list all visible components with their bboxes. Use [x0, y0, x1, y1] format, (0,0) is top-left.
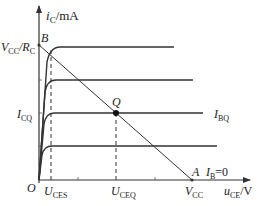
ibq-label: IBQ	[213, 107, 229, 123]
point-a-label: A	[191, 165, 200, 179]
output-characteristics-diagram: iC/mA VCC/RC B ICQ Q IBQ A IB=0 O UCES U…	[0, 0, 265, 206]
axis-ticks	[39, 80, 155, 180]
ib-zero-label: IB=0	[205, 165, 228, 181]
uces-label: UCES	[44, 184, 67, 200]
uceq-label: UCEQ	[111, 184, 136, 200]
vcc-rc-label: VCC/RC	[1, 40, 35, 56]
q-point-marker	[113, 110, 119, 116]
y-axis-label: iC/mA	[46, 8, 79, 25]
icq-label: ICQ	[16, 107, 32, 123]
characteristic-curves	[39, 47, 217, 180]
origin-label: O	[27, 181, 36, 195]
x-axis-label: uCE/V	[224, 184, 253, 200]
point-q-label: Q	[112, 95, 121, 109]
curve-ib-1	[39, 146, 217, 180]
vcc-label: VCC	[185, 184, 203, 200]
point-b-label: B	[41, 31, 49, 45]
